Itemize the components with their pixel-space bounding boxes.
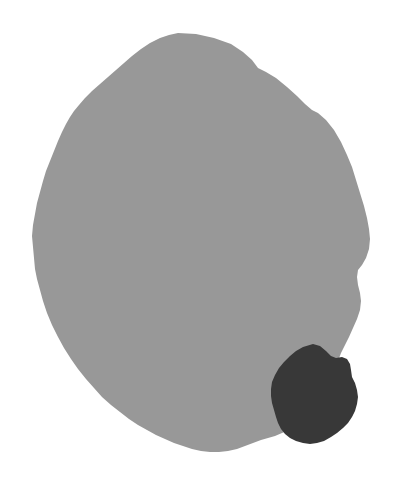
mask-svg-root: [0, 0, 394, 484]
segmentation-mask-canvas: [0, 0, 394, 484]
